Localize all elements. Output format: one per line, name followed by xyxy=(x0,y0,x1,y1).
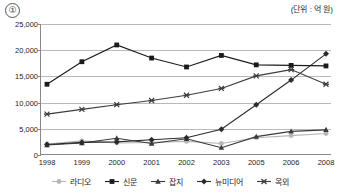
data-point xyxy=(254,62,259,67)
x-axis-tick-label: 2002 xyxy=(178,158,195,167)
data-point xyxy=(288,67,294,72)
data-point xyxy=(289,133,294,138)
legend-label: 옥외 xyxy=(275,176,289,187)
x-axis-tick-label: 2006 xyxy=(283,158,300,167)
series-line xyxy=(47,70,326,115)
unit-note: (단위 : 억 원) xyxy=(291,3,333,14)
legend-label: 뉴미디어 xyxy=(215,176,243,187)
legend-label: 신문 xyxy=(123,176,137,187)
data-point xyxy=(218,86,224,91)
data-point xyxy=(219,53,224,58)
series-layer xyxy=(41,24,332,155)
x-axis-tick-label: 2001 xyxy=(143,158,160,167)
x-axis-tick-label: 2000 xyxy=(108,158,125,167)
square-marker-icon xyxy=(104,177,120,186)
data-point xyxy=(79,59,84,64)
y-axis-tick-label: 15,000 xyxy=(15,72,38,81)
data-point xyxy=(79,107,85,112)
x-axis-tick-label: 2003 xyxy=(213,158,230,167)
data-point xyxy=(149,98,155,103)
data-point xyxy=(149,56,154,61)
x-axis-tick-label: 2005 xyxy=(248,158,265,167)
circle-marker-icon xyxy=(51,177,67,186)
data-point xyxy=(324,64,329,69)
data-point xyxy=(114,102,120,107)
item-number-marker: ① xyxy=(5,3,20,18)
triangle-marker-icon xyxy=(150,177,166,186)
y-axis-tick-mark xyxy=(38,155,41,156)
x-axis-tick-label: 2008 xyxy=(318,158,335,167)
chart-plot-area: 05,00010,00015,00020,00025,000 199819992… xyxy=(40,24,331,155)
legend-item-3[interactable]: 잡지 xyxy=(150,176,183,187)
data-point xyxy=(45,82,50,87)
legend-label: 라디오 xyxy=(70,176,91,187)
data-point xyxy=(114,43,119,48)
data-point xyxy=(253,73,259,78)
legend-item-2[interactable]: 신문 xyxy=(104,176,137,187)
legend-item-4[interactable]: 뉴미디어 xyxy=(196,176,243,187)
y-axis-tick-label: 10,000 xyxy=(15,98,38,107)
legend-item-5[interactable]: 옥외 xyxy=(256,176,289,187)
data-point xyxy=(323,82,329,87)
x-axis-tick-label: 1999 xyxy=(74,158,91,167)
x-axis-tick-label: 1998 xyxy=(39,158,56,167)
diamond-marker-icon xyxy=(196,177,212,186)
y-axis-tick-label: 25,000 xyxy=(15,20,38,29)
y-axis-tick-label: 5,000 xyxy=(19,124,38,133)
data-point xyxy=(183,93,189,98)
data-point xyxy=(184,65,189,70)
star-marker-icon xyxy=(256,177,272,186)
y-axis-tick-label: 20,000 xyxy=(15,46,38,55)
data-point xyxy=(44,112,50,117)
chart-screenshot: ① (단위 : 억 원) 05,00010,00015,00020,00025,… xyxy=(0,0,339,193)
chart-legend: 라디오신문잡지뉴미디어옥외 xyxy=(0,176,339,187)
series-2 xyxy=(45,43,329,87)
legend-item-1[interactable]: 라디오 xyxy=(51,176,91,187)
legend-label: 잡지 xyxy=(169,176,183,187)
series-5 xyxy=(44,67,329,117)
